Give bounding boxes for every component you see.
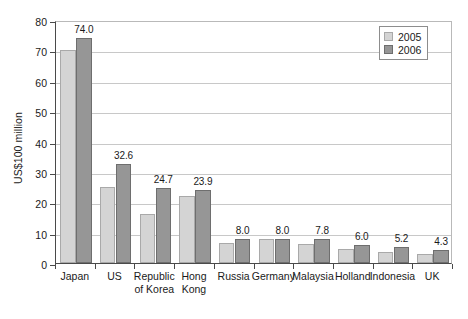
x-tick — [95, 264, 96, 269]
y-tick-label: 80 — [35, 16, 47, 28]
y-tick-label: 20 — [35, 198, 47, 210]
y-tick-label: 50 — [35, 107, 47, 119]
legend-label-2005: 2005 — [398, 31, 421, 43]
y-tick-label: 70 — [35, 46, 47, 58]
x-tick — [452, 264, 453, 269]
legend-swatch-icon-2005 — [384, 32, 393, 41]
bar-2005 — [417, 254, 433, 263]
x-tick — [134, 264, 135, 269]
y-tick-label: 30 — [35, 168, 47, 180]
legend-item-2005: 2005 — [384, 30, 421, 43]
x-tick — [174, 264, 175, 269]
x-tick — [254, 264, 255, 269]
x-tick — [333, 264, 334, 269]
bar-2006 — [433, 250, 449, 263]
x-category-label-line: UK — [403, 270, 461, 283]
y-tick-label: 40 — [35, 138, 47, 150]
y-tick-label: 10 — [35, 229, 47, 241]
bar-value-label: 4.3 — [434, 236, 448, 247]
y-tick-label: 60 — [35, 77, 47, 89]
x-tick — [412, 264, 413, 269]
legend: 2005 2006 — [379, 26, 428, 60]
x-category-label-line: Kong — [165, 283, 223, 296]
x-category-label: UK — [403, 270, 461, 283]
y-axis-title: US$100 million — [12, 68, 24, 228]
x-tick — [214, 264, 215, 269]
x-tick — [293, 264, 294, 269]
legend-swatch-icon-2006 — [384, 45, 393, 54]
legend-item-2006: 2006 — [384, 43, 421, 56]
x-tick — [373, 264, 374, 269]
legend-label-2006: 2006 — [398, 44, 421, 56]
bar-chart: US$100 million 01020304050607080 74.032.… — [0, 0, 468, 319]
x-axis-category-labels: JapanUSRepublicof KoreaHongKongRussiaGer… — [55, 270, 452, 314]
x-tick — [55, 264, 56, 269]
